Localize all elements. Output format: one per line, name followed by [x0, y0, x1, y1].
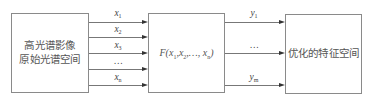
- target-box-optimized-feature-space: 优化的特征空间: [285, 14, 362, 94]
- arrowhead-icon: [279, 51, 285, 55]
- input-label-ellipsis: …: [114, 56, 123, 66]
- arrowhead-icon: [142, 35, 148, 39]
- arrowhead-icon: [279, 20, 285, 24]
- input-label-x2: x2: [114, 24, 121, 37]
- input-label-xn: xn: [114, 72, 121, 85]
- source-box-line2: 原始光谱空间: [19, 53, 80, 67]
- arrowhead-icon: [279, 83, 285, 87]
- function-arg-var: ,…, x: [186, 47, 207, 58]
- source-box-text: 高光谱影像 原始光谱空间: [19, 39, 80, 67]
- input-label-x1: x1: [114, 8, 121, 21]
- input-label-x3: x3: [114, 40, 121, 53]
- function-name: F(: [159, 47, 168, 58]
- source-box-line1: 高光谱影像: [19, 39, 80, 53]
- target-box-text: 优化的特征空间: [288, 47, 359, 61]
- function-close: ): [210, 47, 213, 58]
- arrowhead-icon: [142, 67, 148, 71]
- output-label-ym: ym: [250, 72, 259, 85]
- function-box: F(x1,x2,…, xn): [148, 13, 225, 93]
- arrowhead-icon: [142, 51, 148, 55]
- output-label-y1: y1: [250, 8, 257, 21]
- function-label: F(x1,x2,…, xn): [159, 47, 213, 60]
- arrowhead-icon: [142, 20, 148, 24]
- arrowhead-icon: [142, 83, 148, 87]
- source-box-hyperspectral-original-space: 高光谱影像 原始光谱空间: [11, 13, 89, 93]
- output-label-ellipsis: …: [250, 40, 259, 50]
